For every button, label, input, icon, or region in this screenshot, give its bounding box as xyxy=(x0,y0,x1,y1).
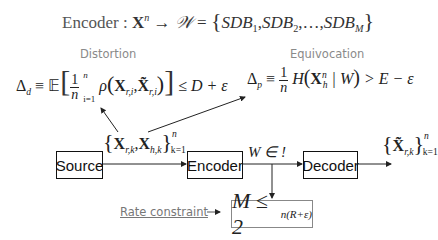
x-r: X xyxy=(114,135,126,152)
encoder-block[interactable]: Encoder xyxy=(187,151,243,179)
decoder-output-label: {X̃r,k}nk=1 xyxy=(382,130,438,157)
encoder-output-label: W ∈ ! xyxy=(248,143,286,161)
decoder-output-sub: k=1 xyxy=(423,146,438,157)
rate-constraint-label: Rate constraint xyxy=(120,205,208,219)
x-r-sub: r,k xyxy=(125,144,134,155)
x-tilde: X̃ xyxy=(393,137,405,154)
rate-constraint-box: M ≤ 2n(R+ε) xyxy=(231,200,313,228)
rate-lhs: M ≤ 2 xyxy=(232,188,281,240)
decoder-output-sup: n xyxy=(424,130,429,141)
x-h-sub: h,k xyxy=(150,144,161,155)
rate-exponent: n(R+ε) xyxy=(281,208,312,220)
decoder-block[interactable]: Decoder xyxy=(303,151,358,179)
source-signal-sub: k=1 xyxy=(171,144,186,155)
source-signal-label: {Xr,k,Xh,k}nk=1 xyxy=(103,128,186,155)
source-signal-sup: n xyxy=(172,128,177,139)
arrow-to-equivocation xyxy=(148,97,245,132)
source-block[interactable]: Source xyxy=(56,151,103,179)
x-h: X xyxy=(138,135,150,152)
